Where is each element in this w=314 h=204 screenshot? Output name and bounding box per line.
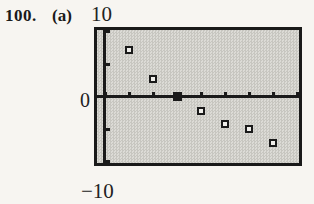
x-axis-tick [104, 92, 107, 96]
x-axis-tick [152, 92, 155, 96]
part-label: (a) [52, 6, 72, 26]
data-point [221, 120, 229, 128]
data-point [197, 107, 205, 115]
y-axis-tick [103, 128, 110, 131]
x-axis-tick [296, 92, 299, 96]
x-axis-tick [224, 92, 227, 96]
data-point [149, 75, 157, 83]
x-axis-tick [200, 92, 203, 96]
y-axis-tick [103, 63, 110, 66]
data-point [125, 46, 133, 54]
y-axis-tick [103, 30, 110, 33]
x-axis-tick [128, 92, 131, 96]
figure-container: 100. (a) 10 0 −10 [0, 0, 314, 204]
y-axis-tick [103, 160, 110, 163]
calculator-screen [94, 27, 302, 166]
x-axis-tick [272, 92, 275, 96]
x-axis-tick [248, 92, 251, 96]
problem-number: 100. [5, 6, 37, 26]
data-point-filled [173, 92, 182, 101]
y-axis-max-label: 10 [91, 2, 112, 27]
y-axis-min-label: −10 [81, 179, 114, 204]
origin-label: 0 [60, 89, 90, 112]
data-point [269, 139, 277, 147]
data-point [245, 125, 253, 133]
